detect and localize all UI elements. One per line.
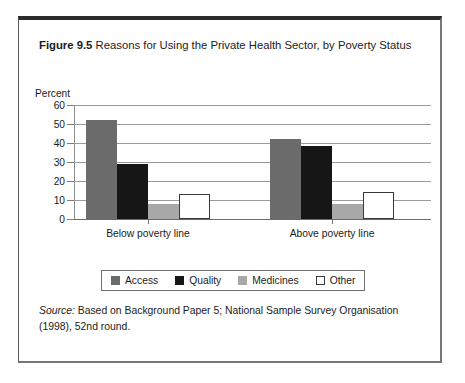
y-axis-label: 0 — [59, 214, 65, 225]
y-axis-tick — [67, 219, 74, 220]
y-axis-tick — [67, 200, 74, 201]
gridline — [74, 105, 431, 106]
y-axis-label: 10 — [54, 195, 65, 206]
source-note: Source: Based on Background Paper 5; Nat… — [39, 303, 411, 334]
gridline — [74, 162, 431, 163]
legend-label: Access — [125, 275, 158, 286]
legend-entry-access: Access — [111, 275, 158, 286]
figure-caption: Figure 9.5 Reasons for Using the Private… — [39, 37, 415, 53]
bar-medicines-group-1 — [148, 204, 179, 219]
plot-area: 0102030405060Below poverty lineAbove pov… — [74, 105, 431, 219]
chart-legend: AccessQualityMedicinesOther — [101, 270, 365, 291]
y-axis-label: 30 — [54, 157, 65, 168]
legend-swatch-other-icon — [316, 276, 325, 285]
legend-entry-quality: Quality — [175, 275, 221, 286]
legend-swatch-medicines-icon — [238, 276, 247, 285]
legend-swatch-access-icon — [111, 276, 120, 285]
figure-title: Reasons for Using the Private Health Sec… — [92, 39, 411, 51]
bar-quality-group-2 — [301, 146, 332, 219]
bar-chart: Percent 0102030405060Below poverty lineA… — [19, 88, 443, 273]
legend-entry-medicines: Medicines — [238, 275, 298, 286]
figure-frame: Figure 9.5 Reasons for Using the Private… — [18, 16, 442, 363]
y-axis-title: Percent — [35, 88, 70, 99]
y-axis-tick — [67, 143, 74, 144]
source-text: Based on Background Paper 5; National Sa… — [39, 305, 398, 332]
y-axis-label: 60 — [54, 100, 65, 111]
source-label: Source: — [39, 305, 75, 316]
y-axis-tick — [67, 162, 74, 163]
gridline — [74, 143, 431, 144]
y-axis-tick — [67, 124, 74, 125]
bar-other-group-1 — [179, 194, 210, 219]
y-axis-label: 20 — [54, 176, 65, 187]
bar-other-group-2 — [363, 192, 394, 219]
legend-swatch-quality-icon — [175, 276, 184, 285]
y-axis-label: 50 — [54, 119, 65, 130]
legend-label: Medicines — [252, 275, 298, 286]
figure-number: Figure 9.5 — [39, 39, 92, 51]
legend-label: Quality — [189, 275, 221, 286]
y-axis-tick — [67, 181, 74, 182]
bar-medicines-group-2 — [332, 204, 363, 219]
x-axis-tick — [148, 219, 149, 224]
bar-quality-group-1 — [117, 164, 148, 219]
legend-entry-other: Other — [316, 275, 356, 286]
x-axis-tick — [332, 219, 333, 224]
bar-access-group-2 — [270, 139, 301, 219]
x-axis-category-label: Above poverty line — [290, 228, 375, 239]
gridline — [74, 124, 431, 125]
axis-baseline — [74, 219, 431, 220]
y-axis-tick — [67, 105, 74, 106]
bar-access-group-1 — [86, 120, 117, 219]
x-axis-category-label: Below poverty line — [106, 228, 190, 239]
legend-label: Other — [330, 275, 356, 286]
y-axis-label: 40 — [54, 138, 65, 149]
